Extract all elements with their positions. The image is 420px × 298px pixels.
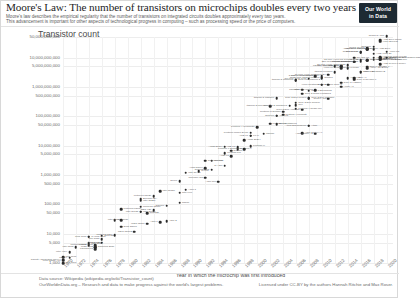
data-point[interactable] (230, 155, 233, 158)
data-point[interactable] (133, 231, 136, 234)
data-point[interactable] (295, 79, 298, 82)
data-point[interactable] (275, 123, 278, 126)
data-point[interactable] (165, 220, 168, 223)
data-point-label: Pentium III (253, 145, 265, 148)
data-point-label: Fairchild F8 (80, 248, 93, 251)
data-point[interactable] (217, 181, 220, 184)
data-point[interactable] (249, 131, 252, 134)
data-point[interactable] (204, 159, 207, 162)
data-point[interactable] (113, 234, 116, 237)
data-point[interactable] (359, 51, 362, 54)
data-point[interactable] (100, 238, 103, 241)
data-point[interactable] (346, 77, 349, 80)
x-axis-tick-label: 1984 (154, 258, 165, 269)
data-point[interactable] (333, 71, 336, 74)
data-point[interactable] (327, 83, 330, 86)
data-point-label: R10000 (234, 149, 243, 152)
data-point[interactable] (159, 190, 162, 193)
data-point[interactable] (159, 221, 162, 224)
data-point[interactable] (165, 204, 168, 207)
data-point[interactable] (146, 222, 149, 225)
data-point[interactable] (256, 126, 259, 129)
data-point[interactable] (262, 133, 265, 136)
data-point[interactable] (68, 256, 71, 259)
data-point-label: 8-core Xeon Nehalem (289, 75, 313, 78)
gridline-vertical (154, 37, 155, 263)
data-point[interactable] (178, 191, 181, 194)
data-point[interactable] (295, 104, 298, 107)
data-point[interactable] (243, 139, 246, 142)
data-point[interactable] (243, 148, 246, 151)
y-axis-tick-label: 50,000 (47, 211, 60, 215)
data-point-label: Tukwila (324, 76, 332, 79)
data-point[interactable] (249, 135, 252, 138)
data-point[interactable] (178, 201, 181, 204)
data-point[interactable] (385, 35, 388, 38)
data-point[interactable] (249, 145, 252, 148)
x-axis-tick-label: 1988 (180, 258, 191, 269)
gridline-vertical (387, 37, 388, 263)
gridline-horizontal (63, 116, 393, 117)
data-point-label: Itanium Poulson (314, 71, 332, 74)
data-point[interactable] (185, 171, 188, 174)
data-point-label: Pentium 4 Cedar Mill (298, 107, 321, 110)
data-point[interactable] (320, 76, 323, 79)
data-point[interactable] (94, 246, 97, 249)
y-axis-tick-label: 5,000,000 (40, 152, 60, 156)
data-point[interactable] (120, 208, 123, 211)
data-point[interactable] (178, 180, 181, 183)
data-point-label: Pentium 4 Prescott (285, 113, 306, 116)
data-point[interactable] (379, 40, 382, 43)
data-point[interactable] (314, 133, 317, 136)
data-point[interactable] (366, 66, 369, 69)
data-point[interactable] (340, 67, 343, 70)
data-point[interactable] (223, 145, 226, 148)
data-point[interactable] (379, 58, 382, 61)
data-point[interactable] (210, 168, 213, 171)
data-point[interactable] (68, 251, 71, 254)
data-point[interactable] (230, 149, 233, 152)
data-point[interactable] (340, 86, 343, 89)
data-point-label: R3000 (182, 201, 189, 204)
data-point-label: K6-III (253, 135, 259, 138)
data-point-label: Core 2 Quad Kentsfield (305, 92, 331, 95)
data-point[interactable] (275, 114, 278, 117)
data-point[interactable] (308, 125, 311, 128)
data-point[interactable] (139, 211, 142, 214)
data-point[interactable] (353, 78, 356, 81)
data-point[interactable] (269, 122, 272, 125)
data-point-label: ARM 700 (205, 181, 215, 184)
data-point[interactable] (295, 107, 298, 110)
data-point[interactable] (320, 84, 323, 87)
data-point[interactable] (275, 97, 278, 100)
data-point[interactable] (372, 53, 375, 56)
data-point[interactable] (100, 241, 103, 244)
data-point[interactable] (88, 235, 91, 238)
gridline-vertical (167, 37, 168, 263)
data-point[interactable] (340, 81, 343, 84)
data-point[interactable] (308, 97, 311, 100)
data-point[interactable] (385, 56, 388, 59)
data-point[interactable] (185, 189, 188, 192)
y-axis-tick-label: 1,000,000,000 (32, 85, 60, 89)
data-point[interactable] (314, 75, 317, 78)
data-point[interactable] (359, 71, 362, 74)
data-point[interactable] (204, 176, 207, 179)
data-point[interactable] (120, 219, 123, 222)
data-point[interactable] (139, 205, 142, 208)
data-point-label: Xeon Ivytown (344, 67, 359, 70)
data-point[interactable] (223, 164, 226, 167)
our-world-in-data-logo[interactable]: Our World in Data (359, 3, 397, 23)
data-point[interactable] (139, 198, 142, 201)
data-point[interactable] (120, 225, 123, 228)
data-point[interactable] (146, 212, 149, 215)
y-axis-tick-label: 50,000,000,000 (29, 35, 60, 39)
data-point[interactable] (327, 97, 330, 100)
gridline-horizontal (63, 213, 393, 214)
data-point[interactable] (366, 47, 369, 50)
data-point-label: Core i7 Haswell (344, 81, 362, 84)
data-point[interactable] (62, 262, 65, 265)
data-point[interactable] (301, 92, 304, 95)
data-point[interactable] (295, 101, 298, 104)
data-point[interactable] (366, 59, 369, 62)
